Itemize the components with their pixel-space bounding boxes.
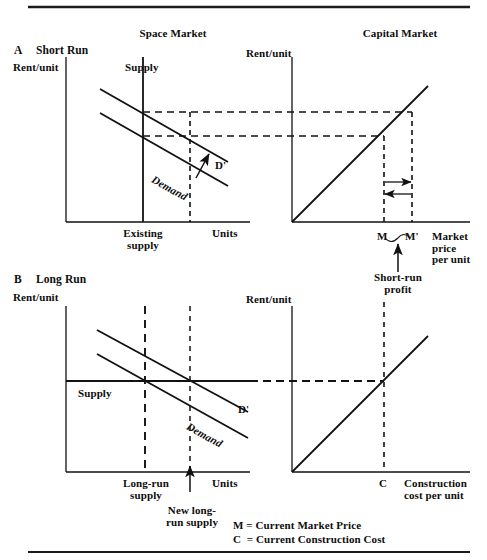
panel-a-existing-supply-tick-label: Existing supply (108, 228, 178, 251)
panel-a-supply-label: Supply (125, 62, 159, 74)
panel-a-space-x-axis-label: Units (212, 228, 238, 240)
panel-a-short-run-profit-annotation: Short-run profit (363, 272, 433, 295)
panel-a-M-tick-label: M (377, 231, 387, 243)
figure-container: Space Market Capital Market A Short Run … (0, 0, 487, 560)
panel-b-caprate-line (292, 336, 428, 472)
panel-b-new-long-run-supply-tick-label: New long- run supply (152, 505, 232, 528)
panel-b-C-tick-label: C (379, 478, 387, 490)
legend-line-construction-cost: C = Current Construction Cost (233, 534, 385, 546)
panel-b-capital-axes (292, 306, 470, 472)
panel-a-M-prime-tick-label: M' (405, 231, 419, 243)
panel-b-section-letter: B (14, 274, 22, 286)
panel-b-section-title: Long Run (36, 274, 86, 286)
panel-b-d-prime-label: D' (238, 404, 249, 416)
legend-line-market-price: M = Current Market Price (233, 520, 361, 532)
panel-a-section-letter: A (14, 45, 22, 57)
column-header-space-market: Space Market (103, 28, 243, 40)
panel-a-d-prime-label: D' (215, 160, 226, 172)
panel-a-capital-axes (292, 57, 470, 222)
panel-b-capital-x-axis-label: Construction cost per unit (404, 478, 467, 501)
panel-b-space-y-axis-label: Rent/unit (13, 292, 59, 304)
panel-a-space-axes (66, 57, 250, 222)
panel-a-demand-curve (100, 113, 228, 186)
panel-a-capital-x-axis-label: Market price per unit (432, 231, 470, 266)
column-header-capital-market: Capital Market (330, 28, 470, 40)
panel-b-long-run-supply-tick-label: Long-run supply (110, 478, 182, 501)
panel-a-caprate-line (292, 86, 428, 222)
panel-a-space-y-axis-label: Rent/unit (13, 62, 59, 74)
panel-a-d-prime-curve (100, 89, 228, 162)
panel-b-space-x-axis-label: Units (212, 478, 238, 490)
panel-a-capital-y-axis-label: Rent/unit (246, 48, 292, 60)
panel-b-capital-y-axis-label: Rent/unit (246, 294, 292, 306)
panel-b-supply-label: Supply (78, 388, 112, 400)
panel-b-d-prime-curve (97, 330, 248, 412)
panel-a-section-title: Short Run (36, 45, 88, 57)
panel-b-demand-curve (97, 354, 248, 438)
